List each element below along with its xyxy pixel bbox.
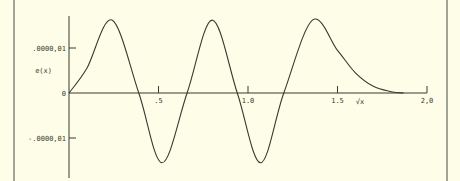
x-tick-label: 2,0 (421, 97, 434, 105)
y-tick-label: .0000,01 (32, 45, 66, 53)
y-axis-label: e(x) (35, 67, 52, 75)
x-tick-label: .5 (154, 97, 162, 105)
x-axis-label: √x (356, 98, 364, 106)
data-line (69, 19, 404, 163)
x-tick-label: 1.0 (242, 97, 255, 105)
y-tick-label: -.0000,01 (28, 135, 66, 143)
x-ticks: .51.01.52,0 (154, 86, 433, 105)
chart: .0000,010-.0000,01 .51.01.52,0 e(x) √x (0, 0, 460, 181)
x-tick-label: 1.5 (331, 97, 344, 105)
y-tick-label: 0 (62, 90, 66, 98)
